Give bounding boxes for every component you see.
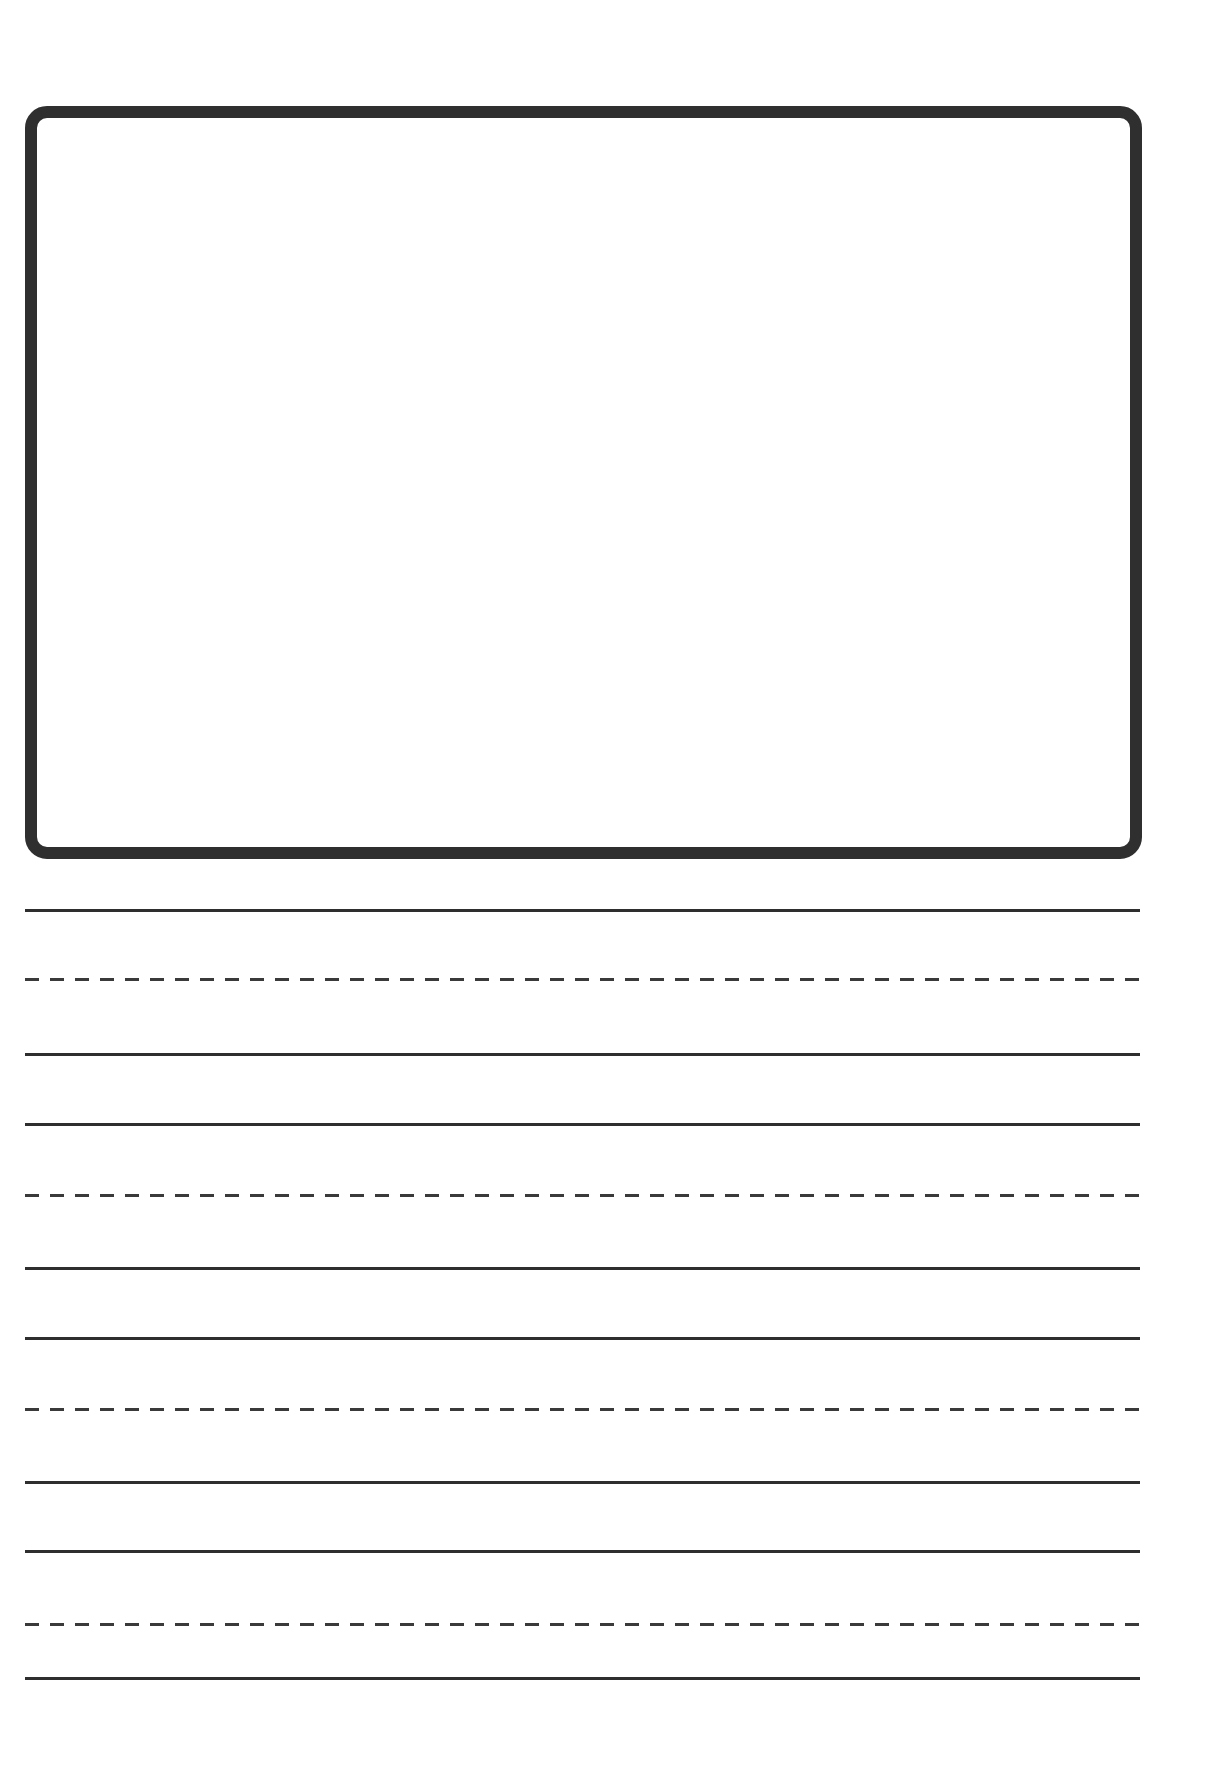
line-3-top: [25, 1337, 1140, 1340]
drawing-box: [25, 106, 1142, 859]
line-3-baseline: [25, 1481, 1140, 1484]
line-2-top: [25, 1123, 1140, 1126]
line-2-baseline: [25, 1267, 1140, 1270]
line-1-baseline: [25, 1053, 1140, 1056]
line-1-midline: [25, 978, 1140, 981]
line-3-midline: [25, 1408, 1140, 1411]
line-4-baseline: [25, 1677, 1140, 1680]
line-4-top: [25, 1550, 1140, 1553]
line-4-midline: [25, 1623, 1140, 1626]
line-2-midline: [25, 1194, 1140, 1197]
line-1-top: [25, 909, 1140, 912]
